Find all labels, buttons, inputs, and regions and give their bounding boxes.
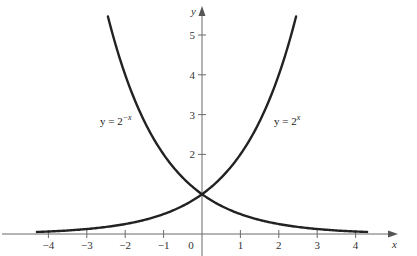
y-axis: y (190, 5, 206, 256)
x-tick-label: 1 (238, 239, 244, 251)
x-tick-label: 4 (353, 239, 359, 251)
x-axis-arrow-icon (388, 231, 398, 238)
label-2-pow-neg-x-exp: −x (123, 113, 132, 122)
y-tick-label: 2 (190, 148, 196, 160)
y-axis-label: y (190, 5, 196, 17)
y-tick-label: 5 (190, 29, 196, 41)
x-tick-label: −1 (158, 239, 170, 251)
x-tick-label: 2 (276, 239, 282, 251)
exponential-chart: x y −4−3−2−101234 2345 y = 2−x y = 2x (0, 0, 417, 256)
y-ticks: 2345 (190, 29, 207, 160)
label-2-pow-neg-x-base: y = 2 (100, 115, 123, 127)
x-ticks: −4−3−2−101234 (43, 230, 359, 251)
x-tick-label: −4 (43, 239, 55, 251)
label-2-pow-neg-x: y = 2−x (100, 113, 132, 127)
x-tick-label: −2 (119, 239, 131, 251)
label-2-pow-x: y = 2x (274, 113, 301, 127)
y-axis-arrow-icon (199, 6, 206, 16)
origin-label: 0 (188, 239, 194, 251)
label-2-pow-x-base: y = 2 (274, 115, 297, 127)
x-tick-label: −3 (81, 239, 93, 251)
curve-2-pow-neg-x (108, 17, 367, 232)
label-2-pow-x-exp: x (296, 113, 301, 122)
x-axis: x (2, 231, 398, 251)
x-axis-label: x (391, 238, 397, 250)
curve-2-pow-x (37, 17, 296, 232)
y-tick-label: 3 (190, 109, 196, 121)
x-tick-label: 3 (314, 239, 320, 251)
y-tick-label: 4 (190, 69, 196, 81)
